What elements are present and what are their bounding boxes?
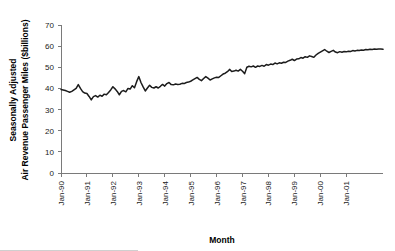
x-tick-label: Jan-01	[342, 180, 351, 205]
x-tick-label: Jan-90	[57, 180, 66, 205]
x-axis-title: Month	[209, 235, 235, 245]
y-axis-title-line1: Seasonally Adjusted	[8, 59, 18, 142]
y-tick-label: 10	[45, 148, 54, 157]
x-tick-label: Jan-93	[135, 180, 144, 205]
x-tick-label: Jan-97	[239, 180, 248, 205]
y-axis-ticks: 010203040506070	[45, 21, 61, 178]
line-chart: Seasonally Adjusted Air Revenue Passenge…	[0, 0, 395, 251]
y-tick-label: 40	[45, 84, 54, 93]
y-tick-label: 0	[50, 169, 55, 178]
x-tick-label: Jan-00	[316, 180, 325, 205]
x-tick-label: Jan-94	[161, 180, 170, 205]
x-axis-ticks: Jan-90Jan-91Jan-92Jan-93Jan-94Jan-95Jan-…	[57, 173, 351, 205]
y-tick-label: 50	[45, 63, 54, 72]
y-tick-label: 30	[45, 106, 54, 115]
x-tick-label: Jan-96	[213, 180, 222, 205]
x-tick-label: Jan-92	[109, 180, 118, 205]
y-tick-label: 60	[45, 42, 54, 51]
x-tick-label: Jan-95	[187, 180, 196, 205]
y-axis-title-line2: Air Revenue Passenger Miles ($billions)	[20, 19, 30, 180]
y-axis-title: Seasonally Adjusted Air Revenue Passenge…	[8, 19, 30, 180]
data-series-line	[61, 49, 383, 100]
y-tick-label: 70	[45, 21, 54, 30]
chart-figure: Seasonally Adjusted Air Revenue Passenge…	[0, 0, 395, 251]
x-tick-label: Jan-99	[290, 180, 299, 205]
x-tick-label: Jan-91	[83, 180, 92, 205]
y-tick-label: 20	[45, 127, 54, 136]
x-tick-label: Jan-98	[264, 180, 273, 205]
